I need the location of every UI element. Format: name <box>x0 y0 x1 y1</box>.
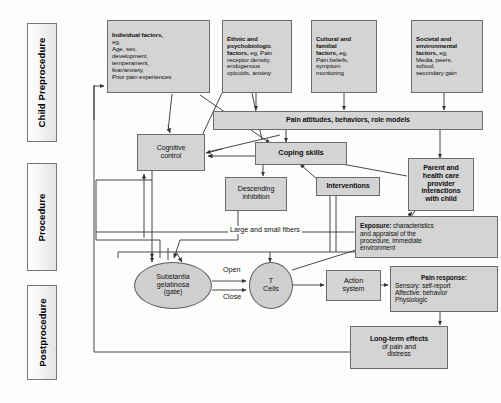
cognitive-control-line-2: control <box>161 153 182 161</box>
exposure-line-4: environment <box>360 244 493 251</box>
coping-skills-label: Coping skills <box>278 149 323 157</box>
phase-label-procedure-text: Procedure <box>37 193 48 241</box>
diagram-canvas: Child Preprocedure Procedure Postprocedu… <box>0 0 501 403</box>
node-coping-skills: Coping skills <box>255 142 347 165</box>
node-t-cells: T Cells <box>249 262 293 309</box>
pain-response-line-3: Affective: behavior <box>395 289 493 296</box>
cultural-factors-line-6: monitoring <box>316 70 372 77</box>
societal-factors-line-6: secondary gain <box>416 70 478 77</box>
node-substantia-gelatinosa: Substantia gelatinosa (gate) <box>134 262 212 309</box>
exposure-line-3: procedure, immediate <box>360 237 493 244</box>
node-exposure: Exposure: characteristics and appraisal … <box>355 216 498 258</box>
action-system-line-2: system <box>343 286 365 294</box>
substantia-gelatinosa-line-3: (gate) <box>164 289 183 297</box>
descending-inhibition-line-2: inhibition <box>242 194 269 202</box>
ethnic-factors-line-6: opicoids, anxiety <box>227 70 287 77</box>
individual-factors-line-1: Individual factors, <box>112 32 205 39</box>
pain-response-line-2: Sensory: self-report <box>395 282 493 289</box>
phase-label-preprocedure: Child Preprocedure <box>27 23 57 142</box>
phase-label-preprocedure-text: Child Preprocedure <box>37 38 48 128</box>
node-descending-inhibition: Descending inhibition <box>225 177 287 211</box>
phase-label-procedure: Procedure <box>27 163 57 271</box>
edge-label-close: Close <box>221 293 243 301</box>
node-long-term-effects: Long-term effects of pain and distress <box>350 326 448 369</box>
node-ethnic-psychobiologic-factors: Ethnic and psychobiologic factors, eg, P… <box>222 20 292 93</box>
parent-provider-line-5: with child <box>425 196 457 204</box>
node-interventions: Interventions <box>316 177 380 196</box>
node-pain-response: Pain response: Sensory: self-report Affe… <box>390 266 498 312</box>
t-cells-line-2: Cells <box>263 286 279 294</box>
edge-label-large-and-small-fibers: Large and small fibers <box>228 226 302 234</box>
exposure-line-1: Exposure: characteristics <box>360 222 493 229</box>
node-societal-environmental-factors: Societal and environmental factors, eg, … <box>411 20 483 93</box>
pain-attitudes-label: Pain attitudes, behaviors, role models <box>286 117 410 125</box>
long-term-effects-line-3: distress <box>387 351 411 359</box>
individual-factors-line-7: Prior pain experiences <box>112 74 205 81</box>
edge-label-open: Open <box>221 266 242 274</box>
phase-label-postprocedure-text: Postprocedure <box>37 298 48 366</box>
node-cognitive-control: Cognitive control <box>137 134 205 171</box>
node-individual-factors: Individual factors, eg, Age, sex, develo… <box>107 20 210 93</box>
exposure-line-2: and appraisal of the <box>360 230 493 237</box>
pain-response-line-1: Pain response: <box>395 274 493 281</box>
pain-response-line-4: Physiologic <box>395 296 493 303</box>
node-parent-provider-interactions: Parent and health care provider interact… <box>408 158 474 211</box>
interventions-label: Interventions <box>326 183 369 191</box>
node-cultural-familial-factors: Cultural and familial factors, eg, Pain … <box>311 20 377 93</box>
node-action-system: Action system <box>326 270 381 301</box>
node-pain-attitudes: Pain attitudes, behaviors, role models <box>213 111 483 130</box>
phase-label-postprocedure: Postprocedure <box>27 285 57 380</box>
